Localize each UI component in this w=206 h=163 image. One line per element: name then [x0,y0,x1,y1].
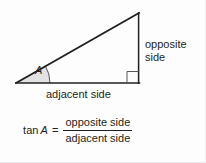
formula-variable: A [39,124,48,136]
right-angle-marker-icon [127,72,139,84]
fraction-denominator: adjacent side [63,131,132,145]
tangent-ratio-figure: A opposite side adjacent side tanA = opp… [0,0,206,163]
tangent-formula: tanA = opposite side adjacent side [23,116,132,144]
opposite-side-label-line1: opposite [145,38,187,51]
formula-equals-sign: = [48,124,63,136]
fraction-numerator: opposite side [63,116,132,130]
opposite-side-label: opposite side [145,38,187,63]
opposite-side-label-line2: side [145,51,187,64]
formula-left-hand-side: tanA [23,124,48,136]
formula-function-name: tan [23,124,39,136]
angle-a-label: A [35,64,42,76]
formula-fraction: opposite side adjacent side [63,116,132,144]
adjacent-side-label: adjacent side [46,88,111,101]
